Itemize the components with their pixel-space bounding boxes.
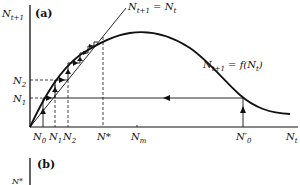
identity-line bbox=[30, 8, 126, 127]
cobweb-diagram: (a) Nt+1 Nt+1 = Nt Nt+1 = f(Nt) N2 N1 N0… bbox=[0, 0, 300, 185]
y-tick-n2: N2 bbox=[12, 75, 27, 89]
curve-label: Nt+1 = f(Nt) bbox=[202, 59, 263, 73]
up-arrow-icon bbox=[240, 106, 246, 113]
panel-b-y-label: N* bbox=[11, 177, 23, 185]
y-axis-label: Nt+1 bbox=[1, 8, 24, 22]
panel-b-label: (b) bbox=[37, 158, 55, 171]
x-tick-nm: Nm bbox=[130, 131, 147, 145]
identity-line-label: Nt+1 = Nt bbox=[127, 1, 176, 15]
x-tick-n0: N0 bbox=[32, 131, 47, 145]
map-curve bbox=[30, 32, 290, 127]
y-tick-n1: N1 bbox=[12, 93, 26, 107]
cobweb-arrows bbox=[40, 44, 93, 114]
x-tick-nstar: N* bbox=[96, 131, 111, 142]
x-tick-n0-prime: N′0 bbox=[235, 131, 252, 145]
x-axis-label: Nt bbox=[285, 131, 298, 145]
x-tick-n1: N1 bbox=[48, 131, 62, 145]
cobweb-steps bbox=[43, 42, 98, 127]
left-arrow-icon bbox=[163, 95, 170, 101]
x-tick-n2: N2 bbox=[62, 131, 77, 145]
panel-a-label: (a) bbox=[35, 7, 53, 20]
